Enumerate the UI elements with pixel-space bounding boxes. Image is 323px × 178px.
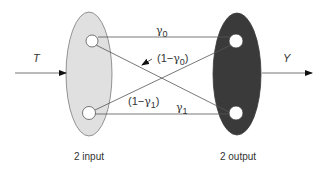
input-signal-label: T [33,52,41,64]
label-1-minus-gamma0: (1−γ0) [157,52,188,67]
label-pointer-arrow [142,59,152,65]
output-node-1 [229,106,243,120]
output-node-0 [229,34,243,48]
label-1-minus-gamma1: (1−γ1) [128,95,159,110]
label-gamma0: γ0 [156,24,168,39]
input-set-label: 2 input [74,151,104,162]
input-node-0 [86,35,98,47]
label-gamma1: γ1 [176,101,188,116]
input-node-1 [83,107,96,120]
output-signal-label: Y [283,52,291,64]
binary-channel-diagram: T Y γ0 (1−γ0) (1−γ1) γ1 2 input 2 output [0,0,323,178]
output-set-label: 2 output [220,151,256,162]
